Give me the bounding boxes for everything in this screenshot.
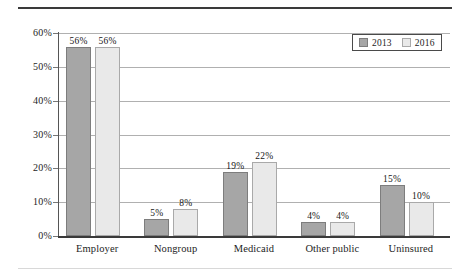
bar[interactable]: 22% [252, 162, 277, 236]
bar-value-label: 56% [69, 36, 87, 46]
x-category-label: Uninsured [356, 242, 466, 255]
chart-figure: 0%10%20%30%40%50%60% 56%56%5%8%19%22%4%4… [0, 0, 470, 274]
bar[interactable]: 19% [223, 172, 248, 236]
bottom-divider-rule [18, 268, 452, 269]
y-tick-label-40: 40% [6, 96, 52, 106]
bar[interactable]: 4% [330, 222, 355, 236]
y-axis-tick-labels: 0%10%20%30%40%50%60% [0, 0, 52, 274]
legend-label: 2013 [372, 38, 392, 48]
bar-groups: 56%56%5%8%19%22%4%4%15%10% [58, 33, 450, 236]
bar-value-label: 4% [336, 211, 349, 221]
y-tick-label-50: 50% [6, 62, 52, 72]
bar[interactable]: 4% [301, 222, 326, 236]
bar[interactable]: 15% [380, 185, 405, 236]
legend-item[interactable]: 2013 [359, 38, 392, 48]
x-axis-line [58, 236, 450, 238]
bar-value-label: 22% [255, 151, 273, 161]
bar-group: 15%10% [372, 33, 450, 236]
bar[interactable]: 10% [409, 202, 434, 236]
legend-swatch-icon [359, 38, 368, 47]
bar-group: 5%8% [136, 33, 214, 236]
y-tick-label-10: 10% [6, 197, 52, 207]
top-divider-rule [18, 7, 452, 9]
bar-group: 56%56% [58, 33, 136, 236]
legend-swatch-icon [402, 38, 411, 47]
legend-item[interactable]: 2016 [402, 38, 435, 48]
bar-value-label: 19% [226, 161, 244, 171]
bar[interactable]: 56% [95, 47, 120, 236]
bar-value-label: 5% [150, 208, 163, 218]
legend-label: 2016 [415, 38, 435, 48]
bar-value-label: 10% [412, 191, 430, 201]
x-axis-category-labels: EmployerNongroupMedicaidOther publicUnin… [58, 242, 450, 258]
bar-value-label: 4% [307, 211, 320, 221]
bar[interactable]: 5% [144, 219, 169, 236]
chart-legend[interactable]: 20132016 [352, 34, 442, 51]
bar[interactable]: 8% [173, 209, 198, 236]
bar-value-label: 15% [383, 174, 401, 184]
bar[interactable]: 56% [66, 47, 91, 236]
y-tick-label-30: 30% [6, 130, 52, 140]
bar-group: 19%22% [215, 33, 293, 236]
bar-group: 4%4% [293, 33, 371, 236]
y-tick-label-60: 60% [6, 28, 52, 38]
y-tick-label-0: 0% [6, 231, 52, 241]
bar-value-label: 56% [98, 36, 116, 46]
bar-value-label: 8% [179, 198, 192, 208]
y-tick-label-20: 20% [6, 163, 52, 173]
